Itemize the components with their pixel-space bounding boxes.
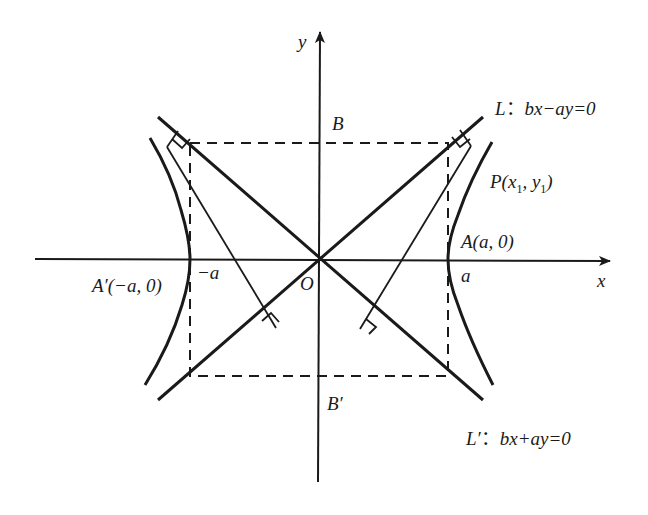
label-asymptote-L: L：bx−ay=0 <box>494 98 596 119</box>
label-a: a <box>461 265 471 286</box>
label-A-prime: A′(−a, 0) <box>90 275 162 297</box>
label-B-prime: B′ <box>327 393 344 414</box>
label-neg-a: −a <box>197 262 219 283</box>
perpendicular-to-L-prime <box>360 146 471 329</box>
right-angle-mark-L-prime <box>366 319 376 334</box>
origin-label: O <box>300 273 314 294</box>
x-axis-label: x <box>596 270 606 291</box>
label-P: P(x1, y1) <box>489 171 553 196</box>
hyperbola-diagram: y x O B B′ −a a A(a, 0) A′(−a, 0) P(x1, … <box>0 0 648 515</box>
label-B: B <box>332 113 344 134</box>
y-axis-label: y <box>296 31 307 52</box>
label-A: A(a, 0) <box>459 231 514 253</box>
label-asymptote-L-prime: L′：bx+ay=0 <box>465 428 571 449</box>
hyperbola-right-branch <box>448 142 493 385</box>
